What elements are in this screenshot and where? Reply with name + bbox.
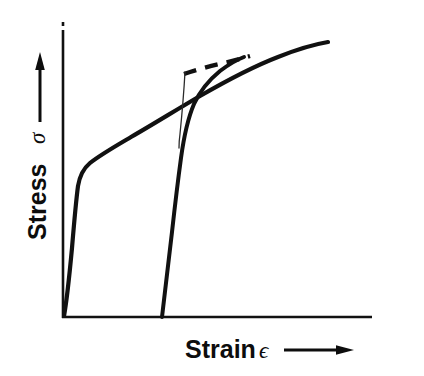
hit-zones [56, 16, 378, 326]
y-axis-arrow-icon [35, 52, 45, 122]
x-axis-arrow-icon [284, 345, 354, 355]
plot-area [63, 22, 373, 318]
x-axis-label-group: Strain ϵ [185, 335, 354, 363]
y-axis-label-symbol: σ [25, 131, 50, 144]
plot-canvas: Stress σ Strain ϵ [0, 0, 424, 376]
y-axis-label-group: Stress σ [23, 52, 51, 240]
y-axis-label-text: Stress [23, 164, 51, 240]
x-axis-label-symbol: ϵ [259, 338, 269, 363]
x-axis-label-text: Strain [185, 335, 256, 363]
stress-strain-figure: Stress σ Strain ϵ [0, 0, 424, 376]
